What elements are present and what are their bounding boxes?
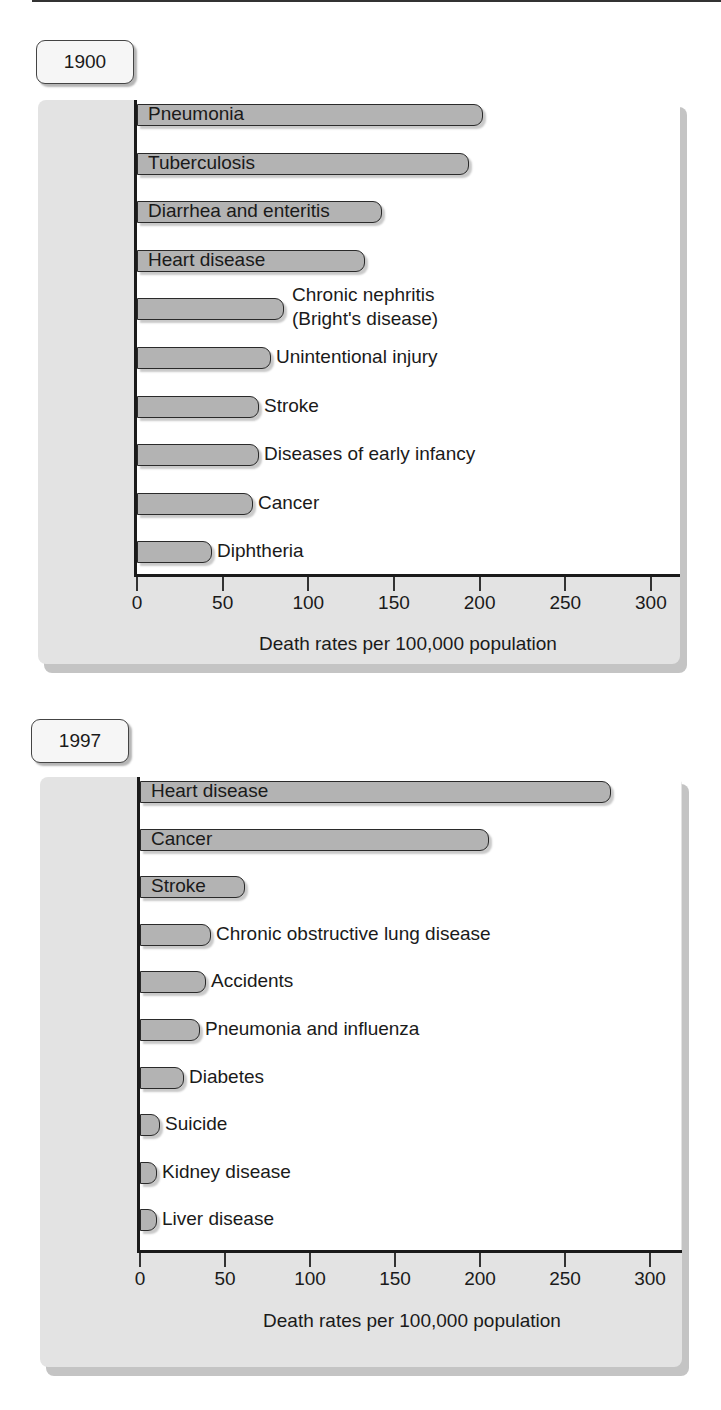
- bar: [140, 1162, 157, 1184]
- x-axis-title-1900: Death rates per 100,000 population: [259, 633, 557, 655]
- bar-label: Cancer: [151, 828, 212, 850]
- x-tick: [564, 577, 566, 591]
- x-tick-label: 100: [294, 1268, 326, 1290]
- bar-label: Pneumonia: [148, 103, 244, 125]
- x-tick: [649, 1253, 651, 1267]
- x-tick: [309, 1253, 311, 1267]
- bar-label: Pneumonia and influenza: [205, 1018, 419, 1040]
- bar: [137, 541, 212, 563]
- x-tick-label: 150: [379, 1268, 411, 1290]
- bar-label: Chronic obstructive lung disease: [216, 923, 491, 945]
- bar: [137, 493, 253, 515]
- x-tick-label: 300: [635, 592, 667, 614]
- x-tick: [136, 577, 138, 591]
- bar-label: Liver disease: [162, 1208, 274, 1230]
- year-tab-1900: 1900: [36, 40, 134, 84]
- bar: [140, 971, 206, 993]
- x-tick: [394, 1253, 396, 1267]
- x-tick: [307, 577, 309, 591]
- x-axis-1900: [134, 574, 680, 577]
- x-tick: [479, 1253, 481, 1267]
- bar-label: Unintentional injury: [276, 346, 438, 368]
- bar-label: Diseases of early infancy: [264, 443, 475, 465]
- top-rule: [32, 0, 721, 2]
- x-tick-label: 100: [292, 592, 324, 614]
- x-tick-label: 0: [135, 1268, 146, 1290]
- bar-label: Kidney disease: [162, 1161, 291, 1183]
- x-tick-label: 250: [549, 592, 581, 614]
- bar: [140, 1209, 157, 1231]
- bar-label: Stroke: [151, 875, 206, 897]
- bar: [140, 1019, 200, 1041]
- x-tick-label: 50: [214, 1268, 235, 1290]
- x-tick-label: 250: [549, 1268, 581, 1290]
- bar-label: Tuberculosis: [148, 152, 255, 174]
- bar: [140, 924, 211, 946]
- x-tick: [222, 577, 224, 591]
- bar-label: Stroke: [264, 395, 319, 417]
- bar-label: Diarrhea and enteritis: [148, 200, 330, 222]
- bar-label: Heart disease: [148, 249, 265, 271]
- bar-label: Diabetes: [189, 1066, 264, 1088]
- x-tick-label: 50: [212, 592, 233, 614]
- bar-label: Accidents: [211, 970, 293, 992]
- bar-label: Heart disease: [151, 780, 268, 802]
- year-tab-1997: 1997: [31, 719, 129, 763]
- bar-label: Suicide: [165, 1113, 227, 1135]
- bar-label: Cancer: [258, 492, 319, 514]
- bar: [137, 298, 284, 320]
- bar: [137, 347, 271, 369]
- bar: [137, 396, 259, 418]
- x-axis-title-1997: Death rates per 100,000 population: [263, 1310, 561, 1332]
- bar: [140, 1114, 160, 1136]
- x-tick: [393, 577, 395, 591]
- x-tick: [224, 1253, 226, 1267]
- x-tick-label: 300: [634, 1268, 666, 1290]
- x-tick-label: 200: [464, 592, 496, 614]
- x-tick: [650, 577, 652, 591]
- bar: [137, 444, 259, 466]
- bar-label-line2: (Bright's disease): [292, 308, 438, 330]
- bar: [140, 1067, 184, 1089]
- x-tick-label: 0: [132, 592, 143, 614]
- x-tick-label: 200: [464, 1268, 496, 1290]
- x-tick: [564, 1253, 566, 1267]
- x-tick-label: 150: [378, 592, 410, 614]
- x-tick: [139, 1253, 141, 1267]
- bar-label: Chronic nephritis: [292, 284, 435, 306]
- x-tick: [479, 577, 481, 591]
- bar-label: Diphtheria: [217, 540, 304, 562]
- x-axis-1997: [137, 1250, 682, 1253]
